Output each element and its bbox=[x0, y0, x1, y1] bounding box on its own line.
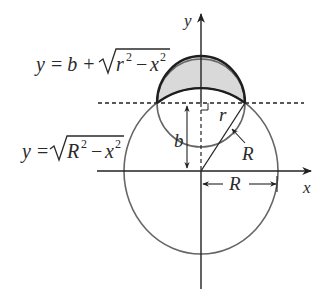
small-radius-label: r bbox=[219, 104, 227, 125]
svg-text:y = b +: y = b + bbox=[34, 53, 94, 76]
svg-text:−: − bbox=[136, 53, 147, 75]
svg-text:x: x bbox=[104, 140, 114, 162]
svg-text:R: R bbox=[66, 140, 79, 162]
horizontal-R-label: R bbox=[228, 173, 241, 194]
x-axis-label: x bbox=[302, 178, 311, 197]
svg-text:2: 2 bbox=[160, 50, 166, 64]
upper-equation: y = b + r 2 − x 2 bbox=[34, 49, 170, 76]
svg-text:x: x bbox=[149, 53, 159, 75]
slant-radius-pointer bbox=[232, 129, 245, 143]
svg-text:2: 2 bbox=[126, 50, 132, 64]
y-axis-label: y bbox=[182, 11, 192, 30]
svg-text:2: 2 bbox=[115, 137, 121, 151]
svg-text:y =: y = bbox=[20, 140, 48, 163]
b-label: b bbox=[174, 130, 184, 151]
slant-R-label: R bbox=[241, 143, 254, 164]
lower-equation: y = R 2 − x 2 bbox=[20, 136, 124, 163]
svg-text:−: − bbox=[91, 140, 102, 162]
right-angle-marker bbox=[201, 103, 208, 110]
circle-intersection-diagram: y x r b R R y = b + r 2 − x 2 y = R 2 − … bbox=[0, 0, 321, 303]
svg-text:r: r bbox=[116, 53, 124, 75]
svg-text:2: 2 bbox=[81, 137, 87, 151]
